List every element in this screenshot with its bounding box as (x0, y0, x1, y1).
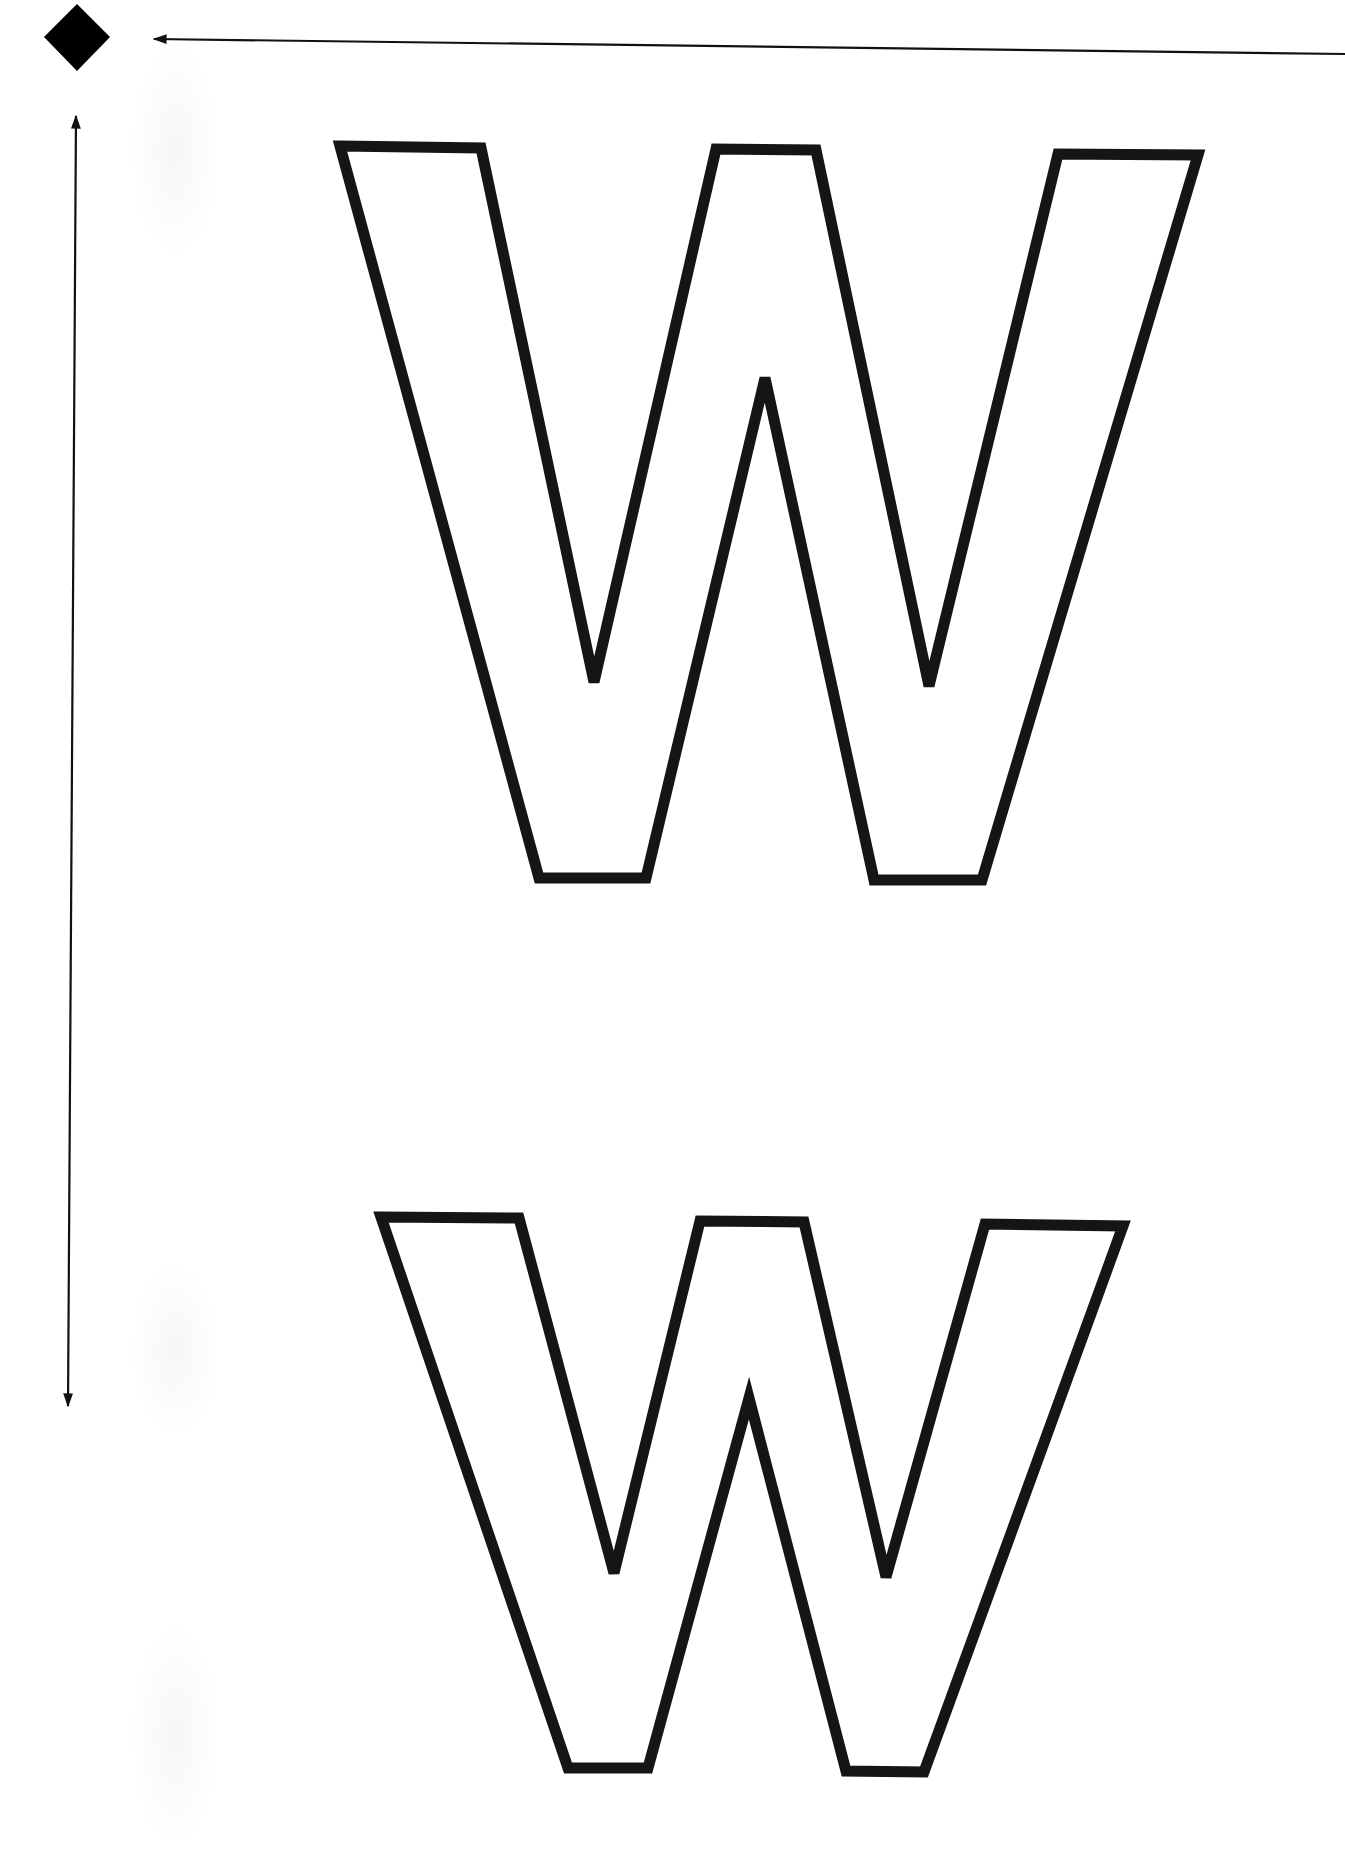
letter-w-outline-large (340, 146, 1198, 880)
letter-w-outline-medium (381, 1217, 1123, 1772)
worksheet-drawing (0, 0, 1345, 1855)
worksheet-page: Letter W tracing worksheet start marker … (0, 0, 1345, 1855)
diamond-start-marker-icon (44, 4, 110, 71)
vertical-guide-arrow-icon (68, 116, 76, 1406)
horizontal-guide-arrow-icon (154, 39, 1345, 54)
